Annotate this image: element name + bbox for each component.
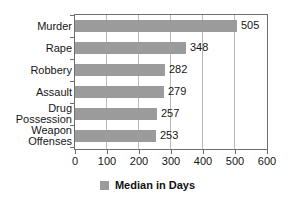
- bar-drug-possession[interactable]: [75, 108, 157, 120]
- y-axis-label-assault: Assault: [0, 87, 72, 98]
- label-line-1: Murder: [0, 21, 72, 32]
- label-line-1: Assault: [0, 87, 72, 98]
- bar-value-rape: 348: [190, 39, 208, 55]
- bar-row: 348: [75, 37, 267, 59]
- x-axis-tick: [235, 150, 236, 154]
- bar-row: 282: [75, 59, 267, 81]
- y-axis-label-robbery: Robbery: [0, 65, 72, 76]
- x-axis-tick: [139, 150, 140, 154]
- y-axis-label-weapon-offenses: Weapon Offenses: [0, 125, 72, 147]
- bar-rape[interactable]: [75, 42, 186, 54]
- x-axis-label-100: 100: [98, 155, 116, 168]
- y-axis-label-murder: Murder: [0, 21, 72, 32]
- bar-assault[interactable]: [75, 86, 164, 98]
- bar-weapon-offenses[interactable]: [75, 130, 156, 142]
- y-axis-labels: Murder Rape Robbery Assault Drug Possess…: [0, 15, 72, 149]
- bar-row: 253: [75, 125, 267, 147]
- x-axis-labels: 0 100 200 300 400 500 600: [0, 155, 295, 169]
- bar-robbery[interactable]: [75, 64, 165, 76]
- y-axis-label-rape: Rape: [0, 43, 72, 54]
- bar-murder[interactable]: [75, 20, 237, 32]
- label-line-1: Robbery: [0, 65, 72, 76]
- x-axis-tick: [107, 150, 108, 154]
- legend-label-median-in-days: Median in Days: [115, 179, 195, 191]
- bar-value-weapon-offenses: 253: [160, 127, 178, 143]
- bar-value-assault: 279: [168, 83, 186, 99]
- y-axis-label-drug-possession: Drug Possession: [0, 103, 72, 125]
- x-axis-label-400: 400: [194, 155, 212, 168]
- label-line-2: Offenses: [0, 136, 72, 147]
- bar-value-robbery: 282: [169, 61, 187, 77]
- bar-value-murder: 505: [241, 17, 259, 33]
- bar-row: 257: [75, 103, 267, 125]
- bar-chart: Murder Rape Robbery Assault Drug Possess…: [0, 0, 295, 199]
- x-axis-label-500: 500: [226, 155, 244, 168]
- legend-swatch-icon: [100, 181, 109, 190]
- x-axis-tick: [171, 150, 172, 154]
- bars-layer: 505 348 282 279 257 253: [75, 15, 267, 149]
- x-axis-label-0: 0: [72, 155, 78, 168]
- x-axis-tick: [267, 150, 268, 154]
- bar-row: 505: [75, 15, 267, 37]
- x-axis-tick: [75, 150, 76, 154]
- label-line-1: Rape: [0, 43, 72, 54]
- x-axis-tick: [203, 150, 204, 154]
- x-axis-label-300: 300: [162, 155, 180, 168]
- bar-row: 279: [75, 81, 267, 103]
- x-axis-label-200: 200: [130, 155, 148, 168]
- bar-value-drug-possession: 257: [161, 105, 179, 121]
- chart-legend: Median in Days: [0, 177, 295, 193]
- x-axis-label-600: 600: [258, 155, 276, 168]
